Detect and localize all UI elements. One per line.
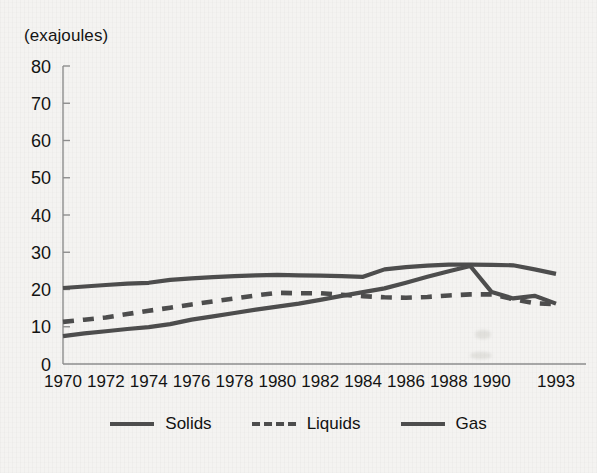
legend-label: Liquids <box>307 414 361 434</box>
y-axis-tick-label: 50 <box>31 168 51 188</box>
x-axis-tick-label: 1974 <box>130 372 168 391</box>
x-axis-tick-label: 1978 <box>216 372 254 391</box>
y-axis-tick-label: 80 <box>31 57 51 77</box>
series-lines <box>63 265 556 337</box>
y-axis-tick-label: 40 <box>31 206 51 226</box>
chart-legend: SolidsLiquidsGas <box>0 414 597 434</box>
y-axis-tick-label: 20 <box>31 280 51 300</box>
y-axis-tick-label: 60 <box>31 131 51 151</box>
x-axis-tick-label: 1976 <box>173 372 211 391</box>
legend-swatch-solids-icon <box>110 422 154 426</box>
y-axis-tick-labels: 01020304050607080 <box>31 57 51 375</box>
x-axis-tick-label: 1972 <box>87 372 125 391</box>
x-axis-tick-label: 1988 <box>430 372 468 391</box>
y-axis-tick-label: 30 <box>31 243 51 263</box>
legend-item-liquids[interactable]: Liquids <box>252 414 361 434</box>
line-chart-plot: 01020304050607080 1970197219741976197819… <box>0 0 597 400</box>
y-axis-tick-label: 10 <box>31 317 51 337</box>
series-line-solids <box>63 265 556 288</box>
legend-item-solids[interactable]: Solids <box>110 414 211 434</box>
x-axis-tick-label: 1980 <box>258 372 296 391</box>
x-axis-tick-labels: 1970197219741976197819801982198419861988… <box>44 372 575 391</box>
series-line-liquids <box>63 293 556 322</box>
legend-label: Solids <box>165 414 211 434</box>
x-axis-tick-label: 1993 <box>537 372 575 391</box>
legend-label: Gas <box>456 414 487 434</box>
chart-page: (exajoules) 01020304050607080 1970197219… <box>0 0 597 473</box>
legend-swatch-liquids-icon <box>252 422 296 426</box>
x-axis-tick-label: 1984 <box>344 372 382 391</box>
y-axis-tick-label: 70 <box>31 94 51 114</box>
x-axis-tick-label: 1970 <box>44 372 82 391</box>
x-axis-tick-label: 1982 <box>301 372 339 391</box>
legend-item-gas[interactable]: Gas <box>401 414 487 434</box>
x-axis-tick-label: 1986 <box>387 372 425 391</box>
legend-swatch-gas-icon <box>401 422 445 426</box>
x-axis-tick-label: 1990 <box>473 372 511 391</box>
